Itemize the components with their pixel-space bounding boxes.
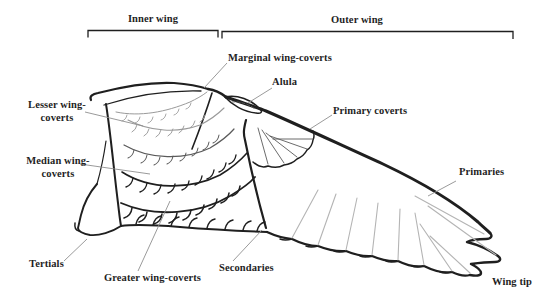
inner-wing-bracket <box>88 31 218 38</box>
label-inner-wing: Inner wing <box>128 13 178 26</box>
trailing-edge-scallops <box>267 232 470 276</box>
label-lesser-wing-coverts: Lesser wing-coverts <box>19 99 95 124</box>
label-median-wing-coverts: Median wing-coverts <box>20 155 96 180</box>
primary-coverts-fan <box>253 128 314 167</box>
label-alula: Alula <box>272 76 297 89</box>
label-primary-coverts: Primary coverts <box>333 105 407 118</box>
wing-diagram <box>0 0 558 304</box>
primary-coverts-barbs <box>258 128 313 164</box>
primary-coverts-leader-line <box>310 115 332 129</box>
label-wing-tip: Wing tip <box>492 276 532 289</box>
hand-boundary-line <box>244 120 266 228</box>
tertials-lobe <box>78 184 121 235</box>
label-outer-wing: Outer wing <box>331 14 383 27</box>
feather-texture <box>116 92 496 273</box>
alula-leader-line <box>248 88 272 103</box>
label-greater-wing-coverts: Greater wing-coverts <box>104 272 201 285</box>
label-secondaries: Secondaries <box>219 262 274 275</box>
label-marginal-wing-coverts: Marginal wing-coverts <box>228 52 332 65</box>
section-brackets <box>88 31 513 40</box>
marginal-coverts-strip-line <box>104 91 201 105</box>
left-contour <box>106 104 121 226</box>
outer-wing-bracket <box>222 32 513 40</box>
marginal-leader-line <box>204 63 227 88</box>
wing-anatomy-figure: Inner wing Outer wing Marginal wing-cove… <box>0 0 558 304</box>
arm-line <box>97 141 106 184</box>
label-tertials: Tertials <box>29 258 64 271</box>
wing-outline <box>75 83 500 276</box>
secondaries-leader-line <box>233 230 262 261</box>
tertials-leader-line <box>64 239 87 261</box>
label-primaries: Primaries <box>459 166 504 179</box>
